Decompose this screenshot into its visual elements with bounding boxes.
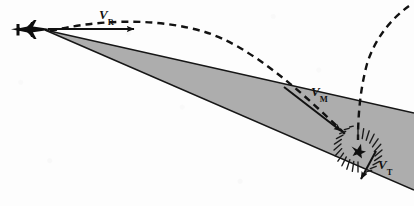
vr-subscript: R bbox=[108, 17, 114, 27]
vt-symbol: V bbox=[378, 157, 387, 172]
vm-subscript: M bbox=[320, 94, 328, 104]
vt-subscript: T bbox=[387, 167, 393, 177]
missile-intercept-diagram: VR VM VT bbox=[0, 0, 414, 206]
vm-symbol: V bbox=[311, 84, 320, 99]
vr-symbol: V bbox=[99, 7, 108, 22]
velocity-missile-label: VM bbox=[311, 85, 328, 101]
velocity-radar-label: VR bbox=[99, 8, 114, 24]
aircraft-icon bbox=[11, 20, 50, 39]
velocity-target-label: VT bbox=[378, 158, 393, 174]
diagram-canvas bbox=[0, 0, 414, 206]
